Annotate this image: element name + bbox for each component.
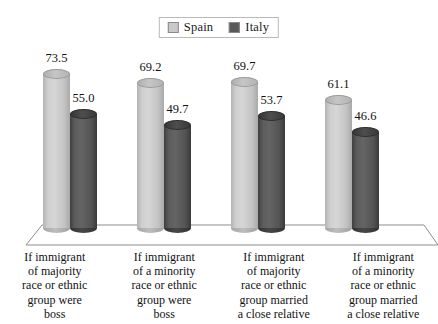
bar-italy-3 xyxy=(258,111,285,228)
category-label-3: If immigrantof majorityrace or ethnicgro… xyxy=(219,250,329,324)
category-label-line: of majority xyxy=(223,264,325,278)
category-label-line: group married xyxy=(333,293,435,307)
value-label-spain-3: 69.7 xyxy=(222,60,267,73)
category-label-line: a close relative xyxy=(223,307,325,321)
bar-chart: Spain Italy 73.555.069.249.769.753.761.1… xyxy=(0,0,438,324)
category-label-line: boss xyxy=(4,307,106,321)
cylinder-top-cap xyxy=(352,127,379,137)
cylinder-top-cap xyxy=(231,77,258,87)
value-label-italy-4: 46.6 xyxy=(343,110,388,123)
category-label-line: group married xyxy=(223,293,325,307)
cylinder-top-cap xyxy=(43,69,70,79)
category-label-line: If immigrant xyxy=(4,250,106,264)
category-label-line: race or ethnic xyxy=(114,278,216,292)
category-label-line: of a minority xyxy=(333,264,435,278)
category-label-4: If immigrantof a minorityrace or ethnicg… xyxy=(329,250,438,324)
cylinder-body xyxy=(164,125,191,228)
bar-italy-4 xyxy=(352,127,379,228)
category-label-line: race or ethnic xyxy=(333,278,435,292)
category-label-line: If immigrant xyxy=(114,250,216,264)
value-label-spain-2: 69.2 xyxy=(128,61,173,74)
cylinder-top-cap xyxy=(137,78,164,88)
category-label-line: race or ethnic xyxy=(223,278,325,292)
category-label-line: boss xyxy=(114,307,216,321)
category-label-line: group were xyxy=(114,293,216,307)
category-axis-labels: If immigrantof majorityrace or ethnicgro… xyxy=(0,250,438,324)
category-label-line: of majority xyxy=(4,264,106,278)
cylinder-body xyxy=(258,116,285,228)
value-label-italy-2: 49.7 xyxy=(155,103,200,116)
plot-area: 73.555.069.249.769.753.761.146.6 xyxy=(0,0,438,250)
category-label-line: of a minority xyxy=(114,264,216,278)
bar-italy-2 xyxy=(164,120,191,228)
bar-spain-2 xyxy=(137,78,164,228)
value-label-italy-1: 55.0 xyxy=(61,92,106,105)
cylinder-body xyxy=(70,114,97,228)
value-label-spain-4: 61.1 xyxy=(316,78,361,91)
value-label-italy-3: 53.7 xyxy=(249,94,294,107)
category-label-2: If immigrantof a minorityrace or ethnicg… xyxy=(110,250,220,324)
category-label-line: If immigrant xyxy=(333,250,435,264)
cylinder-top-cap xyxy=(70,109,97,119)
category-label-line: group were xyxy=(4,293,106,307)
value-label-spain-1: 73.5 xyxy=(34,52,79,65)
category-label-1: If immigrantof majorityrace or ethnicgro… xyxy=(0,250,110,324)
cylinder-body xyxy=(352,132,379,228)
bar-italy-1 xyxy=(70,109,97,228)
category-label-line: race or ethnic xyxy=(4,278,106,292)
category-label-line: a close relative xyxy=(333,307,435,321)
category-label-line: If immigrant xyxy=(223,250,325,264)
